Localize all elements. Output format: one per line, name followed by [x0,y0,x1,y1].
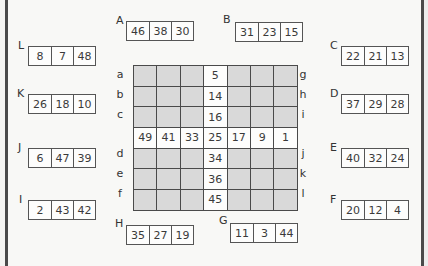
grid-cell [157,66,179,86]
grid-cell [274,149,296,169]
box-cell: 43 [51,201,73,219]
grid-cell [251,169,273,189]
row-label-left: f [114,187,126,200]
box-cell: 18 [51,95,73,113]
box-cell: 31 [236,23,258,41]
number-box-j: 6 47 39 [28,148,96,168]
box-cell: 44 [275,224,297,242]
group-label-c: C [330,40,338,51]
group-label-d: D [330,88,338,99]
group-label-k: K [17,88,24,99]
group-label-h: H [115,218,123,229]
grid-cell [251,190,273,210]
group-label-i: I [19,194,22,205]
grid-cell [134,149,156,169]
box-cell: 48 [73,47,95,65]
row-label-left: b [114,88,126,101]
grid-cell [134,107,156,127]
grid-cell [228,190,250,210]
grid-cell [274,87,296,107]
grid-cell [228,87,250,107]
group-label-j: J [18,142,21,153]
grid-cell [274,107,296,127]
box-cell: 20 [342,201,364,219]
box-cell: 29 [364,95,386,113]
number-box-i: 2 43 42 [28,200,96,220]
number-box-g: 11 3 44 [230,223,298,243]
group-label-b: B [223,14,231,25]
grid-cell [251,107,273,127]
grid-cell [274,169,296,189]
box-cell: 6 [29,149,51,167]
number-box-f: 20 12 4 [341,200,409,220]
grid-cell [134,66,156,86]
grid-cell [134,169,156,189]
box-cell: 24 [386,149,408,167]
box-cell: 35 [127,226,149,244]
row-label-right: g [297,68,309,81]
group-label-f: F [330,194,336,205]
box-cell: 8 [29,47,51,65]
grid-cell [228,66,250,86]
number-box-c: 22 21 13 [341,46,409,66]
grid-cell: 16 [204,107,226,127]
grid-cell [181,190,203,210]
grid-cell [181,87,203,107]
group-label-a: A [116,15,124,26]
number-box-a: 46 38 30 [126,21,194,41]
grid-cell: 25 [204,128,226,148]
grid-cell: 49 [134,128,156,148]
box-cell: 3 [253,224,275,242]
number-box-l: 8 7 48 [28,46,96,66]
box-cell: 2 [29,201,51,219]
grid-cell [157,87,179,107]
row-label-left: a [114,68,126,81]
box-cell: 28 [386,95,408,113]
box-cell: 19 [171,226,193,244]
central-grid: 5 14 16 49 41 33 25 17 9 1 34 36 45 [133,65,298,211]
box-cell: 22 [342,47,364,65]
group-label-e: E [330,142,337,153]
box-cell: 15 [280,23,302,41]
box-cell: 11 [231,224,253,242]
box-cell: 7 [51,47,73,65]
grid-cell [251,66,273,86]
box-cell: 10 [73,95,95,113]
box-cell: 27 [149,226,171,244]
grid-cell [181,66,203,86]
row-label-right: h [297,88,309,101]
box-cell: 46 [127,22,149,40]
grid-cell: 17 [228,128,250,148]
frame-border-left [5,0,8,266]
box-cell: 23 [258,23,280,41]
grid-cell [274,190,296,210]
grid-cell: 5 [204,66,226,86]
box-cell: 37 [342,95,364,113]
row-label-right: l [297,187,309,200]
number-box-h: 35 27 19 [126,225,194,245]
box-cell: 21 [364,47,386,65]
number-box-k: 26 18 10 [28,94,96,114]
box-cell: 32 [364,149,386,167]
grid-cell [157,190,179,210]
grid-cell [181,107,203,127]
grid-cell [228,169,250,189]
box-cell: 12 [364,201,386,219]
group-label-l: L [18,40,24,51]
box-cell: 38 [149,22,171,40]
number-box-b: 31 23 15 [235,22,303,42]
grid-cell [228,107,250,127]
grid-cell [274,66,296,86]
grid-cell [181,169,203,189]
row-label-right: j [297,147,309,160]
number-box-d: 37 29 28 [341,94,409,114]
row-label-left: d [114,147,126,160]
number-box-e: 40 32 24 [341,148,409,168]
box-cell: 42 [73,201,95,219]
row-label-right: i [297,108,309,121]
row-label-right: k [297,167,309,180]
grid-cell: 34 [204,149,226,169]
page-margin-right [424,0,428,266]
row-label-left: c [114,108,126,121]
grid-cell [134,190,156,210]
